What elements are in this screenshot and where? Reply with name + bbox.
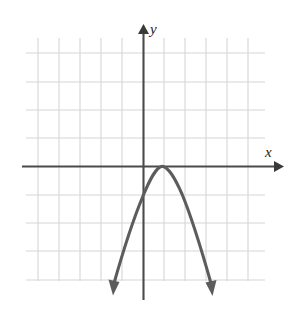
y-axis-label: y [150, 22, 157, 37]
x-axis-arrowhead [274, 161, 284, 172]
x-axis [22, 161, 284, 172]
graph-figure: y x [0, 0, 293, 317]
y-axis [138, 24, 149, 300]
parabola-right-arrowhead [206, 280, 217, 296]
y-axis-arrowhead [138, 24, 149, 34]
parabola-left-arrowhead [109, 280, 120, 296]
coordinate-plane-svg [0, 0, 293, 317]
x-axis-label: x [265, 145, 272, 160]
parabola-curve [109, 166, 217, 296]
